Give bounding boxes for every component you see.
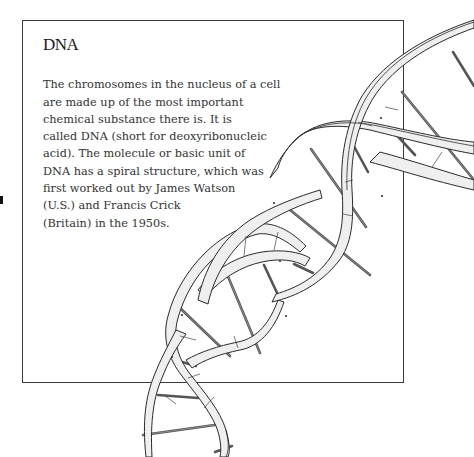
body-paragraph: The chromosomes in the nucleus of a cell… [43, 59, 280, 232]
paragraph-line: first worked out by James Watson [43, 180, 280, 197]
paragraph-line: (U.S.) and Francis Crick [43, 197, 280, 214]
paragraph-line: The chromosomes in the nucleus of a cell [43, 76, 280, 93]
paragraph-line: chemical substance there is. It is [43, 111, 280, 128]
paragraph-line: are made up of the most important [43, 94, 280, 111]
section-heading: DNA [43, 35, 78, 55]
paragraph-line: (Britain) in the 1950s. [43, 215, 280, 232]
page-edge-mark [0, 196, 3, 204]
paragraph-line: acid). The molecule or basic unit of [43, 145, 280, 162]
paragraph-line: DNA has a spiral structure, which was [43, 163, 280, 180]
paragraph-line: called DNA (short for deoxyribonucleic [43, 128, 280, 145]
